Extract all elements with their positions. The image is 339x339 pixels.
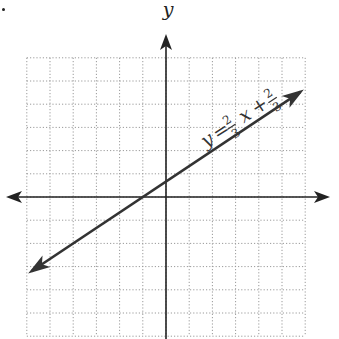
y-axis-label: y bbox=[162, 0, 174, 20]
coordinate-plane: y y = 2 3 x + 2 3 bbox=[0, 0, 339, 339]
line-start-arrow-icon bbox=[28, 255, 50, 273]
line-end-arrow-icon bbox=[282, 90, 304, 108]
equation-label: y = 2 3 x + 2 3 bbox=[195, 85, 285, 158]
axes bbox=[6, 34, 330, 339]
